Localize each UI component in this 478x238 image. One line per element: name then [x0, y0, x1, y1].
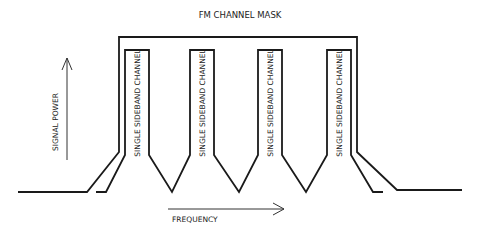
frequency-arrow-icon — [168, 203, 284, 215]
fm-channel-mask-outline — [18, 37, 462, 192]
diagram-title: FM CHANNEL MASK — [199, 10, 282, 20]
channel-label-4: SINGLE SIDEBAND CHANNEL — [335, 48, 344, 156]
x-axis-label: FREQUENCY — [172, 215, 218, 224]
channel-label-3: SINGLE SIDEBAND CHANNEL — [266, 48, 275, 156]
channel-label-2: SINGLE SIDEBAND CHANNEL — [198, 48, 207, 156]
channel-label-1: SINGLE SIDEBAND CHANNEL — [133, 48, 142, 156]
y-axis-label: SIGNAL POWER — [51, 93, 60, 151]
fm-channel-diagram: FM CHANNEL MASK SINGLE SIDEBAND CHANNEL … — [0, 0, 478, 238]
signal-power-arrow-icon — [62, 58, 72, 160]
